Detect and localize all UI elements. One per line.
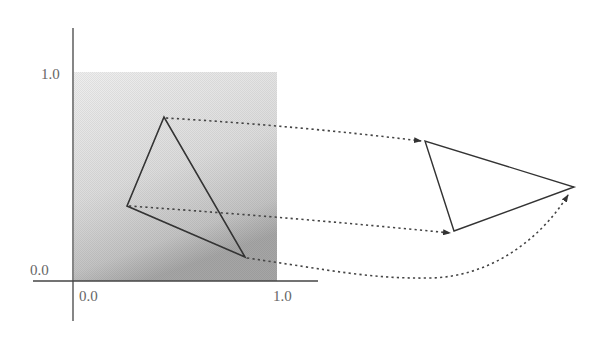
texture-mapping-diagram: 1.0 0.0 0.0 1.0 (0, 0, 601, 337)
x-tick-label-right: 1.0 (273, 288, 292, 304)
texture-image (74, 72, 277, 281)
y-tick-label-bottom: 0.0 (30, 262, 49, 278)
x-tick-label-left: 0.0 (79, 288, 98, 304)
y-tick-label-top: 1.0 (41, 66, 60, 82)
